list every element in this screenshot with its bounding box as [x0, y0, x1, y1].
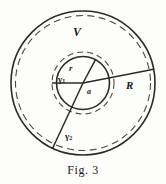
radius-R-line [83, 69, 154, 83]
gamma-2-subscript: 2 [69, 135, 72, 141]
figure-3-container: V r R a γ1 γ2 Fig. 3 [0, 0, 166, 184]
figure-caption: Fig. 3 [0, 163, 166, 178]
gamma-1-subscript: 1 [62, 78, 65, 84]
inner-radius-label-r: r [69, 64, 73, 73]
inner-gap-label-a: a [87, 88, 91, 96]
contour-label-gamma-1: γ1 [58, 75, 65, 85]
region-label-V: V [73, 26, 81, 38]
outer-radius-label-R: R [126, 80, 133, 91]
radius-r-line [83, 60, 96, 83]
contour-label-gamma-2: γ2 [65, 132, 72, 142]
figure-diagram [0, 0, 166, 166]
